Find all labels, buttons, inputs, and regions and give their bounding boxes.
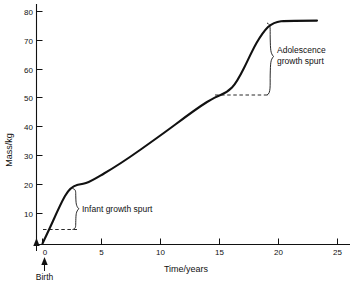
x-tick-label-5: 5 — [99, 248, 104, 257]
growth-chart-figure: 80 70 60 50 40 30 20 10 0 5 10 15 20 25 … — [0, 0, 351, 282]
x-tick-label-15: 15 — [215, 248, 224, 257]
infant-spurt-label: Infant growth spurt — [82, 204, 153, 214]
chart-svg: 80 70 60 50 40 30 20 10 0 5 10 15 20 25 … — [0, 0, 351, 282]
birth-label: Birth — [36, 272, 54, 282]
infant-brace — [73, 189, 79, 230]
x-axis-title: Time/years — [164, 264, 209, 274]
x-tick-label-0: 0 — [43, 248, 48, 257]
y-axis-ticks — [37, 12, 43, 214]
y-tick-label-10: 10 — [24, 210, 33, 219]
y-tick-label-70: 70 — [24, 37, 33, 46]
x-axis-ticks — [43, 239, 338, 245]
y-axis-title: Mass/kg — [4, 133, 14, 167]
adolescence-brace — [267, 23, 274, 95]
x-tick-label-10: 10 — [156, 248, 165, 257]
y-tick-label-80: 80 — [24, 8, 33, 17]
y-tick-label-60: 60 — [24, 66, 33, 75]
y-tick-label-30: 30 — [24, 152, 33, 161]
adolescence-spurt-label-line2: growth spurt — [277, 56, 324, 66]
y-tick-label-20: 20 — [24, 181, 33, 190]
adolescence-spurt-label-line1: Adolescence — [277, 45, 326, 55]
x-tick-label-20: 20 — [274, 248, 283, 257]
y-tick-label-50: 50 — [24, 94, 33, 103]
x-tick-label-25: 25 — [333, 248, 342, 257]
birth-arrow-icon — [41, 257, 47, 271]
origin-arrow-icon — [33, 238, 39, 251]
y-tick-label-40: 40 — [24, 123, 33, 132]
